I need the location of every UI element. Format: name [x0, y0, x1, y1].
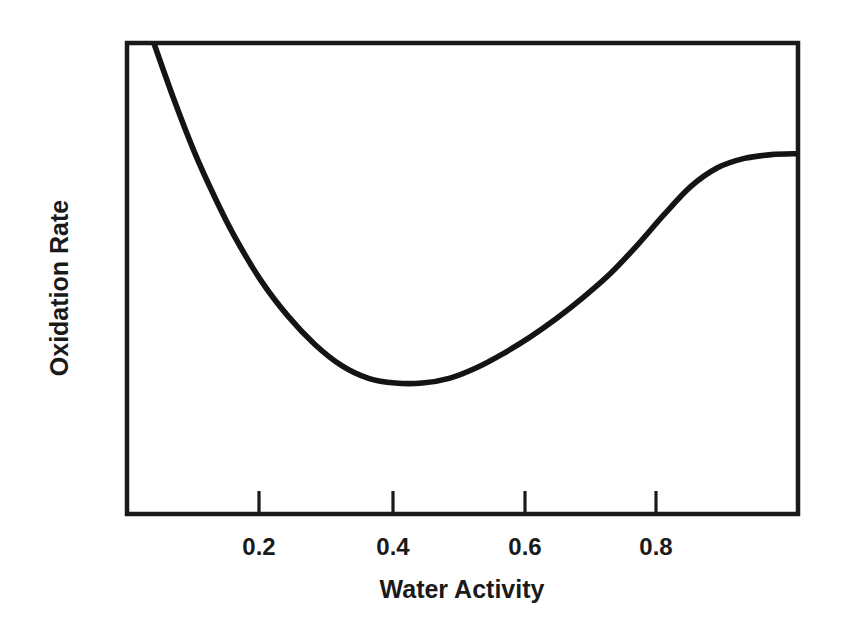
- x-tick-label-4: 0.8: [639, 533, 672, 560]
- x-axis-title: Water Activity: [380, 575, 545, 603]
- x-tick-label-3: 0.6: [508, 533, 541, 560]
- x-tick-label-1: 0.2: [242, 533, 275, 560]
- x-tick-label-2: 0.4: [376, 533, 410, 560]
- y-axis-title: Oxidation Rate: [45, 200, 73, 377]
- oxidation-rate-vs-water-activity-chart: 0.2 0.4 0.6 0.8 Water Activity Oxidation…: [0, 0, 841, 626]
